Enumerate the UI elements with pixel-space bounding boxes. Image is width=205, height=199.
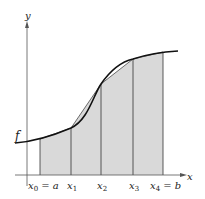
shaded-trapezoids bbox=[40, 52, 163, 175]
y-axis-label: y bbox=[24, 10, 31, 21]
y-axis-arrow-icon bbox=[25, 21, 29, 28]
partition-label-x4: x4 = b bbox=[150, 180, 181, 193]
function-label: f bbox=[14, 129, 22, 143]
x-axis-arrow-icon bbox=[180, 173, 187, 177]
partition-label-x0: x0 = a bbox=[28, 180, 59, 193]
trapezoidal-rule-figure: y x f x0 = a x1 x2 x3 x4 = b bbox=[0, 0, 205, 199]
partition-label-x2: x2 bbox=[97, 180, 107, 193]
partition-label-x1: x1 bbox=[67, 180, 77, 193]
x-axis-label: x bbox=[187, 171, 193, 182]
diagram-canvas: y x f x0 = a x1 x2 x3 x4 = b bbox=[0, 0, 205, 199]
partition-label-x3: x3 bbox=[129, 180, 139, 193]
